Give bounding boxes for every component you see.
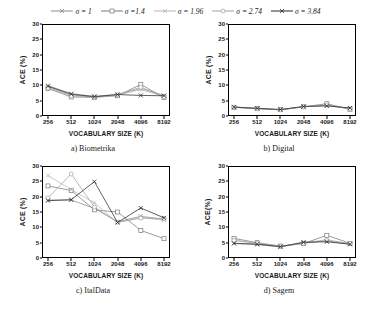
x-tick-label: 256 [43,119,53,125]
y-tick-label: 20 [218,52,225,58]
legend-item-5: σ = 3.84 [271,6,321,16]
y-tick-label: 0 [36,113,39,119]
subplot-caption: a) Biometrika [0,144,186,153]
y-tick-label: 0 [222,255,225,261]
y-tick-label: 10 [32,82,39,88]
legend-marker-x-icon [154,6,176,16]
legend-label: σ =1.4 [125,7,145,16]
y-tick-label: 5 [36,240,39,246]
y-tick-label: 25 [32,178,39,184]
subplot-3: 0510152025302565121024204840968192ACE (%… [0,160,186,302]
plot-area: 0510152025302565121024204840968192ACE (%… [42,166,170,258]
x-tick-label: 8192 [157,119,170,125]
x-tick-label: 2048 [297,119,310,125]
series-layer [228,166,356,258]
y-axis-label: ACE (%) [19,197,26,226]
subplot-caption: d) Sagem [186,286,372,295]
subplot-grid: 0510152025302565121024204840968192ACE (%… [0,18,372,312]
legend-label: σ = 2.74 [236,7,262,16]
x-tick-label: 4096 [134,119,147,125]
y-tick-label: 15 [218,67,225,73]
x-tick-label: 512 [66,119,76,125]
x-axis-label: VOCABULARY SIZE (K) [42,130,170,137]
x-tick-label: 4096 [320,119,333,125]
x-tick-label: 4096 [320,261,333,267]
x-tick-label: 256 [43,261,53,267]
legend-label: σ = 1 [75,7,91,16]
y-tick-label: 10 [218,224,225,230]
y-tick-label: 30 [32,163,39,169]
legend-marker-circle-icon [212,6,234,16]
plot-area: 0510152025302565121024204840968192ACE (%… [42,24,170,116]
y-tick-label: 20 [218,194,225,200]
y-tick-label: 15 [32,67,39,73]
legend-item-1: σ = 1 [51,6,91,16]
y-tick-label: 30 [218,163,225,169]
data-series-4 [232,103,352,112]
series-layer [42,166,170,258]
subplot-1: 0510152025302565121024204840968192ACE (%… [0,18,186,160]
data-series-4 [46,172,166,224]
x-tick-label: 8192 [343,261,356,267]
series-layer [228,24,356,116]
x-tick-label: 512 [66,261,76,267]
y-tick-label: 25 [218,36,225,42]
x-tick-label: 4096 [134,261,147,267]
y-axis-label: ACE (%) [205,55,212,84]
y-tick-label: 10 [32,224,39,230]
plot-area: 0510152025302565121024204840968192ACE (%… [228,24,356,116]
x-tick-label: 1024 [274,119,287,125]
y-axis-label: ACE (%) [19,55,26,84]
y-tick-label: 20 [32,52,39,58]
y-tick-label: 30 [218,21,225,27]
subplot-caption: b) Digital [186,144,372,153]
legend: σ = 1σ =1.4σ = 1.96σ = 2.74σ = 3.84 [0,4,372,18]
x-tick-label: 2048 [111,261,124,267]
x-tick-label: 256 [229,261,239,267]
y-tick-label: 5 [36,98,39,104]
y-tick-label: 30 [32,21,39,27]
plot-area: 0510152025302565121024204840968192ACE(%) [228,166,356,258]
x-tick-label: 2048 [111,119,124,125]
y-tick-label: 20 [32,194,39,200]
legend-label: σ = 3.84 [295,7,321,16]
legend-marker-x-icon [271,6,293,16]
y-tick-label: 15 [32,209,39,215]
y-axis-label: ACE(%) [204,199,211,226]
x-tick-label: 512 [252,261,262,267]
legend-marker-square-icon [101,6,123,16]
data-series-5 [232,104,352,112]
legend-item-4: σ = 2.74 [212,6,262,16]
y-tick-label: 10 [218,82,225,88]
y-tick-label: 5 [222,98,225,104]
series-layer [42,24,170,116]
y-tick-label: 0 [36,255,39,261]
x-tick-label: 256 [229,119,239,125]
subplot-2: 0510152025302565121024204840968192ACE (%… [186,18,372,160]
x-axis-label: VOCABULARY SIZE (K) [228,272,356,279]
y-tick-label: 25 [218,178,225,184]
y-tick-label: 0 [222,113,225,119]
x-tick-label: 8192 [157,261,170,267]
legend-label: σ = 1.96 [178,7,204,16]
y-tick-label: 15 [218,209,225,215]
x-tick-label: 1024 [88,119,101,125]
subplot-4: 0510152025302565121024204840968192ACE(%)… [186,160,372,302]
legend-marker-x-icon [51,6,73,16]
x-tick-label: 2048 [297,261,310,267]
x-tick-label: 1024 [274,261,287,267]
x-axis-label: VOCABULARY SIZE (K) [228,130,356,137]
y-tick-label: 5 [222,240,225,246]
legend-item-3: σ = 1.96 [154,6,204,16]
x-tick-label: 1024 [88,261,101,267]
legend-item-2: σ =1.4 [101,6,145,16]
data-series-5 [46,180,166,225]
x-tick-label: 8192 [343,119,356,125]
y-tick-label: 25 [32,36,39,42]
subplot-caption: c) ItalData [0,286,186,295]
x-tick-label: 512 [252,119,262,125]
x-axis-label: VOCABULARY SIZE (K) [42,272,170,279]
data-series-3 [232,103,352,112]
